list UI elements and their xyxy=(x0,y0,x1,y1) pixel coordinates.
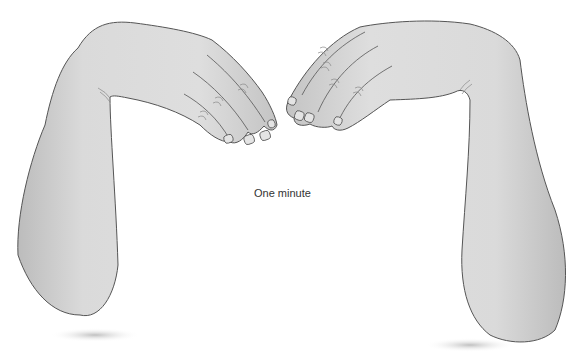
duration-caption: One minute xyxy=(254,187,311,199)
left-arm xyxy=(18,22,277,316)
illustration: One minute xyxy=(0,0,584,362)
right-arm-shadow xyxy=(425,338,515,352)
right-arm xyxy=(287,21,566,342)
left-nail-3 xyxy=(259,130,271,142)
left-arm-shadow xyxy=(50,328,140,342)
